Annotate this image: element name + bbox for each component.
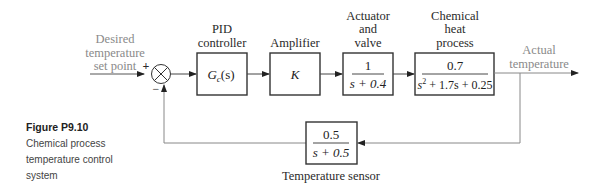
pid-transfer-function: Gc(s) <box>207 67 234 84</box>
sensor-numerator: 0.5 <box>323 127 339 142</box>
figure-label: Figure P9.10 <box>26 121 136 133</box>
output-label-line-2: temperature <box>509 57 569 71</box>
output-label: Actual temperature <box>509 43 569 71</box>
process-title-line-1: Chemical <box>431 9 479 23</box>
actuator-numerator: 1 <box>365 58 372 73</box>
amplifier-block: Amplifier K <box>270 36 320 95</box>
amplifier-title: Amplifier <box>270 36 320 50</box>
sensor-title: Temperature sensor <box>282 169 381 183</box>
summing-junction <box>152 65 171 84</box>
process-denominator: s2 + 1.7s + 0.25 <box>418 77 493 92</box>
caption-line-2: temperature control <box>26 152 136 168</box>
process-title-line-2: heat <box>445 22 466 36</box>
actuator-valve-block: Actuator and valve 1 s + 0.4 <box>343 9 393 95</box>
sensor-denominator: s + 0.5 <box>313 145 350 160</box>
input-label-line-2: temperature <box>85 46 145 60</box>
pid-title-line-1: PID <box>212 22 232 36</box>
amplifier-gain: K <box>290 67 301 82</box>
figure-caption: Figure P9.10 Chemical process temperatur… <box>26 121 136 184</box>
process-numerator: 0.7 <box>447 58 464 73</box>
plus-sign: + <box>143 59 150 73</box>
input-label-line-1: Desired <box>96 32 136 46</box>
input-label: Desired temperature set point <box>85 32 145 73</box>
caption-line-1: Chemical process <box>26 136 136 152</box>
actuator-title-line-2: and <box>359 22 378 36</box>
pid-controller-block: PID controller Gc(s) <box>197 22 247 95</box>
chemical-process-block: Chemical heat process 0.7 s2 + 1.7s + 0.… <box>415 9 494 95</box>
input-label-line-3: set point <box>94 59 137 73</box>
output-label-line-1: Actual <box>522 43 556 57</box>
temperature-sensor-block: 0.5 s + 0.5 Temperature sensor <box>282 122 381 183</box>
caption-line-3: system <box>26 168 136 184</box>
actuator-title-line-1: Actuator <box>346 9 391 23</box>
actuator-title-line-3: valve <box>354 36 382 50</box>
minus-sign: − <box>153 82 160 96</box>
process-title-line-3: process <box>436 36 474 50</box>
pid-title-line-2: controller <box>198 36 247 50</box>
actuator-denominator: s + 0.4 <box>350 76 387 91</box>
